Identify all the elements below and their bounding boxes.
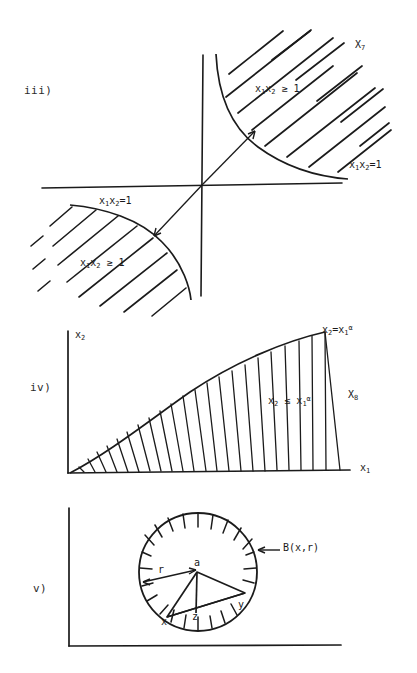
fig-v-segment-az <box>196 572 197 613</box>
fig-iii-curve-label-upper: x1x2=1 <box>349 160 382 172</box>
x8-subscript: 8 <box>354 394 358 402</box>
fig-v-ball-label: B(x,r) <box>283 543 319 553</box>
fig-v-point-y-label: y <box>238 600 244 610</box>
fig-iii-curve-label-lower: x1x2=1 <box>99 196 132 208</box>
region-alpha: α <box>307 395 311 403</box>
curve-upper-eq: =1 <box>370 159 382 170</box>
fig-v-ball-leader <box>258 547 280 553</box>
fig-iv-x-axis-label: x1 <box>360 463 370 475</box>
region-le: ≤ <box>284 395 290 406</box>
region-x2-sub: 2 <box>274 400 278 408</box>
fig-v-point-a-label: a <box>194 558 200 568</box>
fig-v-radius-arrow <box>143 568 196 585</box>
fig-iv-set-label-x8: X8 <box>348 390 358 402</box>
fig-iii-region-label-upper: x1x2 ≥ 1 <box>255 84 300 96</box>
fig-v-x-axis <box>69 645 341 646</box>
fig-iv-region-label: x2 ≤ x1α <box>268 396 311 408</box>
fig-v-triangle <box>167 572 245 617</box>
region-lower-ge: ≥ 1 <box>107 257 125 268</box>
y-axis-sub: 2 <box>81 334 85 342</box>
fig-v-radius-label: r <box>158 565 164 575</box>
figure-v-drawing <box>0 0 417 673</box>
fig-iv-curve-label: x2=x1α <box>322 325 353 337</box>
x7-subscript: 7 <box>361 44 365 52</box>
region-lower-sub2: 2 <box>96 262 100 270</box>
fig-iii-set-label-x7: X7 <box>355 40 365 52</box>
x-axis-sub: 1 <box>366 467 370 475</box>
fig-iv-y-axis-label: x2 <box>75 330 85 342</box>
fig-v-segment-xz <box>167 593 245 617</box>
fig-v-point-x-label: x <box>161 617 167 627</box>
fig-v-point-z-label: z <box>192 612 198 622</box>
curve-lower-eq: =1 <box>120 195 132 206</box>
fig-iii-region-label-lower: x1x2 ≥ 1 <box>80 258 125 270</box>
region-upper-ge: ≥ 1 <box>282 83 300 94</box>
region-upper-sub2: 2 <box>271 88 275 96</box>
curve-alpha: α <box>349 324 353 332</box>
